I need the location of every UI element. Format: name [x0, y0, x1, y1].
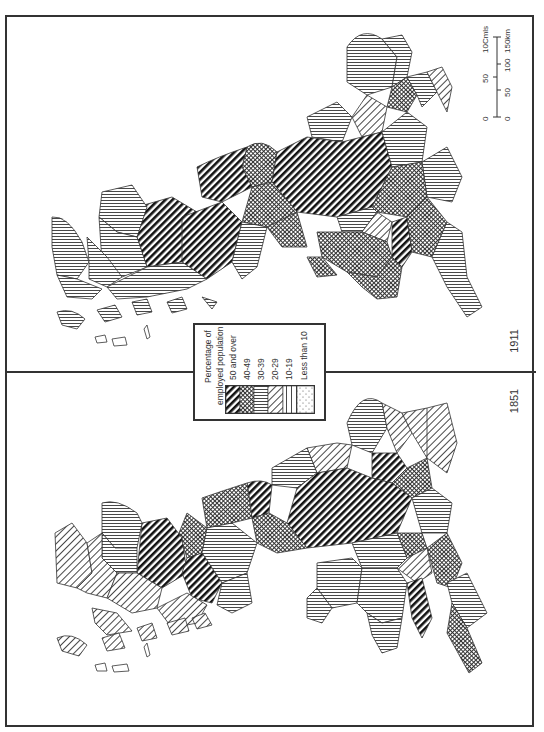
choropleth-map-1911	[7, 17, 534, 371]
year-label-1911: 1911	[508, 329, 520, 353]
scale-km-150: 150km	[503, 29, 512, 53]
swatch-50-and-over	[226, 386, 240, 413]
scale-km-100: 100	[503, 59, 512, 72]
legend-box: Percentage of employed population 50 and…	[193, 323, 326, 421]
legend-label-less-than-10: Less than 10	[299, 331, 309, 380]
year-label-1851: 1851	[508, 389, 520, 413]
choropleth-map-1851	[7, 373, 534, 727]
scale-bar: 0 50 10Cmls 0 50 100 150km	[477, 25, 517, 125]
swatch-less-than-10	[297, 386, 314, 413]
scale-km-50: 50	[503, 88, 512, 97]
swatch-10-19	[283, 386, 297, 413]
legend-title-line2: employed population	[215, 327, 225, 405]
swatch-40-49	[240, 386, 254, 413]
swatch-30-39	[254, 386, 268, 413]
map-panel-1911: 1911 0 50 10Cmls 0 50 100 150km	[7, 17, 534, 371]
legend-label-50-and-over: 50 and over	[228, 335, 238, 380]
legend-label-20-29: 20-29	[270, 358, 280, 380]
scale-miles-50: 50	[481, 74, 490, 83]
scale-miles-0: 0	[481, 117, 490, 121]
scale-km-0: 0	[503, 117, 512, 121]
scale-miles-100: 10Cmls	[481, 26, 490, 53]
map-panel-1851: 1851	[7, 373, 534, 727]
legend-label-30-39: 30-39	[256, 358, 266, 380]
legend-title-line1: Percentage of	[203, 330, 213, 383]
swatch-20-29	[268, 386, 283, 413]
legend-label-40-49: 40-49	[242, 358, 252, 380]
legend-label-10-19: 10-19	[284, 358, 294, 380]
legend-swatches	[225, 385, 315, 414]
